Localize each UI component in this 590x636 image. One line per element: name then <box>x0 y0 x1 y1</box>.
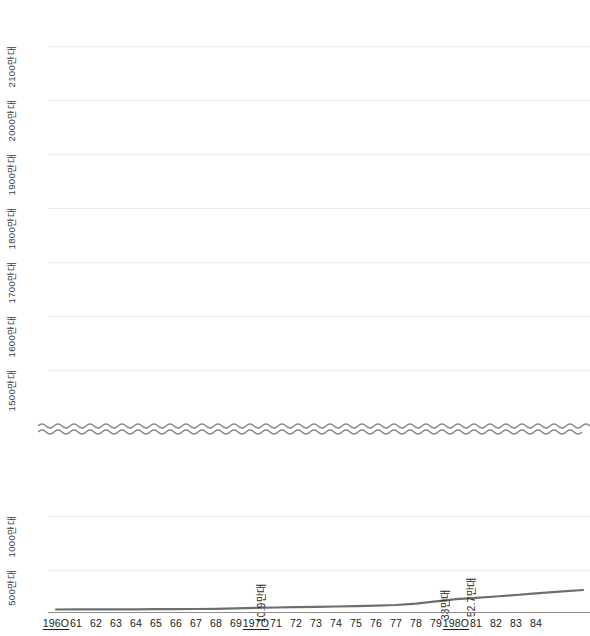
x-tick-1970: 197O <box>243 617 270 629</box>
x-tick-77: 77 <box>390 617 402 629</box>
x-tick-79: 79 <box>430 617 442 629</box>
x-tick-68: 68 <box>210 617 222 629</box>
x-tick-64: 64 <box>130 617 142 629</box>
x-tick-65: 65 <box>150 617 162 629</box>
x-tick-75: 75 <box>350 617 362 629</box>
x-tick-1960: 196O <box>43 617 70 629</box>
x-tick-69: 69 <box>230 617 242 629</box>
x-tick-66: 66 <box>170 617 182 629</box>
x-tick-1980: 198O <box>443 617 470 629</box>
x-tick-73: 73 <box>310 617 322 629</box>
x-tick-78: 78 <box>410 617 422 629</box>
x-tick-83: 83 <box>510 617 522 629</box>
x-tick-71: 71 <box>270 617 282 629</box>
x-tick-61: 61 <box>70 617 82 629</box>
x-tick-84: 84 <box>530 617 542 629</box>
series-line-path <box>56 590 583 610</box>
x-tick-82: 82 <box>490 617 502 629</box>
x-axis-line <box>48 612 590 613</box>
chart-canvas: 2100만대 2000만대 1900만대 1800만대 1700만대 1600만… <box>0 0 590 636</box>
x-tick-72: 72 <box>290 617 302 629</box>
x-tick-74: 74 <box>330 617 342 629</box>
x-tick-76: 76 <box>370 617 382 629</box>
x-tick-62: 62 <box>90 617 102 629</box>
annotation-1978: 33만대 <box>437 590 452 620</box>
series-line <box>0 0 590 636</box>
x-tick-67: 67 <box>190 617 202 629</box>
x-axis-ticks: 196O616263646566676869197O71727374757677… <box>48 617 590 636</box>
x-tick-63: 63 <box>110 617 122 629</box>
annotation-1978-label: 33만대 <box>440 590 451 620</box>
x-tick-81: 81 <box>470 617 482 629</box>
